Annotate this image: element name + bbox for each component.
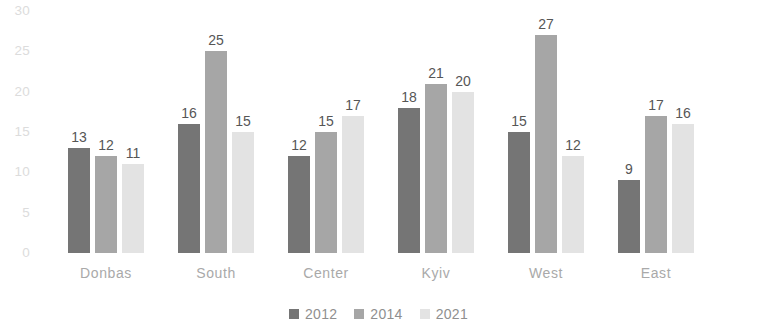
bar[interactable] [95, 156, 117, 253]
category-label-east: East [618, 264, 694, 282]
bar-slot: 16 [672, 124, 694, 253]
bar[interactable] [398, 108, 420, 253]
bar[interactable] [562, 156, 584, 253]
legend-item-2014[interactable]: 2014 [354, 306, 402, 322]
bar-value-label: 11 [126, 146, 141, 161]
y-axis-tick-label: 20 [4, 85, 30, 99]
bar-slot: 9 [618, 180, 640, 253]
bar-group: 91716 [618, 0, 694, 262]
bar-value-label: 17 [648, 98, 664, 113]
bar-group: 121517 [288, 0, 364, 262]
bar-slot: 17 [342, 116, 364, 253]
bar-group: 162515 [178, 0, 254, 262]
bar-slot: 15 [508, 132, 530, 253]
y-axis-tick-label: 5 [4, 206, 30, 220]
bar[interactable] [425, 84, 447, 253]
legend-swatch-icon [289, 309, 299, 319]
bar[interactable] [618, 180, 640, 253]
bar[interactable] [68, 148, 90, 253]
chart-legend: 201220142021 [0, 306, 757, 322]
bar-group: 182120 [398, 0, 474, 262]
bar-value-label: 16 [181, 106, 197, 121]
bar-value-label: 25 [208, 33, 224, 48]
bar-slot: 12 [562, 156, 584, 253]
bar-chart: 051015202530 131211162515121517182120152… [0, 0, 757, 335]
bar[interactable] [508, 132, 530, 253]
legend-swatch-icon [420, 309, 430, 319]
bar-value-label: 20 [455, 74, 471, 89]
bar[interactable] [452, 92, 474, 253]
bar-slot: 13 [68, 148, 90, 253]
bar-value-label: 16 [675, 106, 691, 121]
category-label-kyiv: Kyiv [398, 264, 474, 282]
bar-slot: 18 [398, 108, 420, 253]
bar[interactable] [205, 51, 227, 253]
y-axis-tick-label: 25 [4, 44, 30, 58]
bar[interactable] [535, 35, 557, 253]
y-axis-tick-label: 10 [4, 165, 30, 179]
bar-value-label: 15 [511, 114, 527, 129]
bar-value-label: 27 [538, 17, 554, 32]
legend-label: 2014 [370, 306, 402, 322]
bar[interactable] [315, 132, 337, 253]
bar-value-label: 18 [401, 90, 417, 105]
y-axis-tick-label: 30 [4, 4, 30, 18]
legend-swatch-icon [354, 309, 364, 319]
bar[interactable] [672, 124, 694, 253]
legend-label: 2012 [305, 306, 337, 322]
bar-value-label: 17 [345, 98, 361, 113]
category-label-south: South [178, 264, 254, 282]
bar[interactable] [122, 164, 144, 253]
bar[interactable] [232, 132, 254, 253]
bar-value-label: 15 [235, 114, 251, 129]
legend-item-2012[interactable]: 2012 [289, 306, 337, 322]
legend-label: 2021 [436, 306, 468, 322]
bar-value-label: 9 [625, 162, 633, 177]
bar-slot: 12 [288, 156, 310, 253]
bar-value-label: 13 [71, 130, 87, 145]
bar[interactable] [342, 116, 364, 253]
bar-slot: 17 [645, 116, 667, 253]
bar-slot: 27 [535, 35, 557, 253]
plot-area: 051015202530 131211162515121517182120152… [0, 0, 757, 262]
bar-value-label: 12 [565, 138, 581, 153]
bar-slot: 15 [232, 132, 254, 253]
category-label-center: Center [288, 264, 364, 282]
category-label-donbas: Donbas [68, 264, 144, 282]
y-axis-tick-label: 15 [4, 125, 30, 139]
bar-slot: 16 [178, 124, 200, 253]
bar[interactable] [288, 156, 310, 253]
bar-value-label: 15 [318, 114, 334, 129]
bar-group: 152712 [508, 0, 584, 262]
category-label-west: West [508, 264, 584, 282]
bar-value-label: 21 [428, 66, 444, 81]
legend-item-2021[interactable]: 2021 [420, 306, 468, 322]
y-axis: 051015202530 [0, 0, 30, 262]
bar-value-label: 12 [98, 138, 114, 153]
bar-slot: 12 [95, 156, 117, 253]
bar[interactable] [645, 116, 667, 253]
y-axis-tick-label: 0 [4, 246, 30, 260]
bar[interactable] [178, 124, 200, 253]
bar-slot: 15 [315, 132, 337, 253]
x-axis-category-labels: DonbasSouthCenterKyivWestEast [0, 264, 757, 292]
bar-slot: 21 [425, 84, 447, 253]
bar-slot: 20 [452, 92, 474, 253]
bar-group: 131211 [68, 0, 144, 262]
bar-slot: 11 [122, 164, 144, 253]
bar-value-label: 12 [291, 138, 307, 153]
bar-slot: 25 [205, 51, 227, 253]
